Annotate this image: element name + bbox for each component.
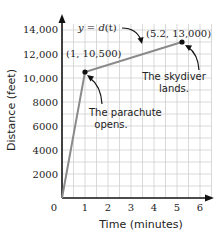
y-tick-label: 10,000	[23, 73, 58, 84]
y-tick-label: 8000	[33, 97, 58, 108]
y-tick-label: 6000	[33, 121, 58, 132]
parachute-note-line1: The parachute	[88, 107, 162, 118]
y-tick-label: 14,000	[23, 24, 58, 35]
point2-label: (5.2, 13,000)	[146, 28, 211, 39]
y-tick-labels: 2000 4000 6000 8000 10,000 12,000 14,000	[23, 24, 58, 180]
point1-label: (1, 10,500)	[66, 48, 122, 59]
x-axis-title: Time (minutes)	[98, 218, 183, 231]
x-axis-arrow-icon	[205, 195, 214, 202]
skydiver-arrow-icon	[188, 47, 199, 70]
parachute-note-line2: opens.	[94, 119, 127, 130]
point-skydiver-lands	[179, 39, 184, 44]
skydiver-note-line2: lands.	[159, 83, 189, 94]
distance-time-chart: 2000 4000 6000 8000 10,000 12,000 14,000…	[0, 0, 222, 240]
skydiver-note-line1: The skydiver	[141, 71, 207, 82]
y-axis-title: Distance (feet)	[5, 69, 18, 151]
x-tick-label: 6	[197, 202, 203, 213]
x-tick-label: 1	[82, 202, 88, 213]
y-tick-label: 12,000	[23, 49, 58, 60]
x-tick-label: 3	[128, 202, 134, 213]
y-tick-label: 4000	[33, 145, 58, 156]
x-tick-label: 5	[174, 202, 180, 213]
y-tick-label: 2000	[33, 169, 58, 180]
point-parachute-opens	[82, 69, 87, 74]
x-tick-label: 4	[151, 202, 157, 213]
x-tick-labels: 0 1 2 3 4 5 6	[51, 202, 203, 213]
y-axis-arrow-icon	[59, 14, 66, 23]
x-tick-label: 2	[105, 202, 111, 213]
origin-label: 0	[51, 202, 57, 213]
parachute-arrow-icon	[90, 78, 102, 104]
function-label: y = d(t)	[77, 22, 117, 33]
